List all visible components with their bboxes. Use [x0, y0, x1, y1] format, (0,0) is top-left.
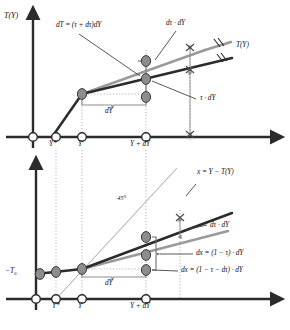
top-panel: [6, 18, 272, 148]
top-brace-label: dY: [105, 106, 113, 115]
annotation-dx-tau: dx = (1 − τ) · dY: [196, 248, 243, 257]
top-curve-hatch-marks: [214, 38, 227, 62]
top-dy-brace: [82, 100, 146, 108]
top-curve-label: T(Y): [236, 40, 249, 49]
bottom-45-line: [56, 168, 177, 299]
bottom-xtick-y: Y: [78, 301, 82, 310]
annotation-dT: dT = (τ + dτ)dY: [56, 20, 101, 29]
top-measure-tau: [186, 73, 194, 138]
annotation-dtau-dY-bottom: dτ · dY: [210, 220, 229, 229]
top-curve-dark-upper: [82, 58, 232, 94]
bottom-leader-lines: [152, 184, 207, 271]
bottom-xtick-ystar: Y*: [52, 301, 60, 310]
top-y-axis-label: T(Y): [4, 11, 18, 20]
top-xtick-ystar: Y*: [49, 139, 57, 148]
annotation-dx-tau-dtau: dx = (1 − τ − dτ) · dY: [181, 265, 243, 274]
top-curve-gray-tail: [205, 42, 231, 50]
intercept-text: −T: [5, 266, 14, 275]
top-curve-dark: [52, 94, 82, 137]
top-xtick-y: Y: [78, 139, 82, 148]
annotation-tau-dY: τ · dY: [200, 93, 215, 102]
intercept-label: −T0: [5, 266, 16, 276]
top-xtick-ydy: Y + dY: [130, 139, 150, 148]
bottom-panel: [6, 168, 272, 310]
intercept-subscript: 0: [14, 271, 16, 276]
bottom-brace-label: dY: [105, 278, 113, 287]
annotation-dtau-dY-top: dτ · dY: [166, 18, 185, 27]
bottom-xtick-ydy: Y + dY: [130, 301, 150, 310]
bottom-curve-label: x = Y − T(Y): [197, 167, 234, 176]
bottom-dy-brace: [82, 272, 146, 280]
annotation-45-degree: 45°: [117, 194, 126, 201]
panel-link-guides: [56, 150, 146, 305]
figure-root: T(Y) dT = (τ + dτ)dY dτ · dY τ · dY T(Y)…: [0, 0, 290, 330]
diagram-canvas: [0, 0, 290, 330]
